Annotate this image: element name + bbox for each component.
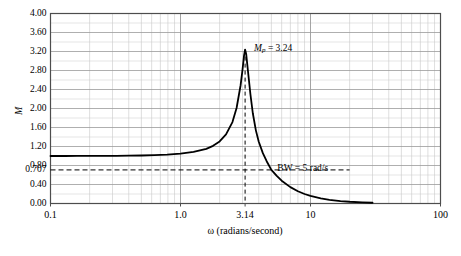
bandwidth-annotation-label: BW = 5 rad/s	[277, 164, 328, 174]
y-tick-label: 1.60	[30, 123, 47, 133]
y-tick-label: 0.40	[30, 180, 47, 190]
x-tick-label: 10	[286, 210, 336, 220]
y-tick-label: 2.00	[30, 104, 47, 114]
x-tick-label: 3.14	[220, 210, 270, 220]
x-tick-label: 0.1	[26, 210, 76, 220]
magnitude-curve	[51, 50, 373, 203]
y-tick-label: 3.20	[30, 47, 47, 57]
y-tick-label: 3.60	[30, 28, 47, 38]
peak-annotation-value: = 3.24	[266, 43, 293, 53]
y-tick-label: 1.20	[30, 142, 47, 152]
peak-annotation-label: Mp = 3.24	[254, 44, 292, 54]
peak-annotation-symbol: M	[254, 43, 262, 53]
x-tick-label: 100	[416, 210, 461, 220]
y-tick-label: 0.707	[25, 165, 46, 175]
y-tick-label: 2.40	[30, 85, 47, 95]
y-axis-title: M	[14, 106, 24, 114]
y-tick-label: 4.00	[30, 9, 47, 19]
data-curve	[51, 50, 373, 203]
x-tick-label: 1.0	[156, 210, 206, 220]
y-tick-label: 0.00	[30, 199, 47, 209]
x-axis-title: ω (radians/second)	[175, 226, 315, 236]
y-tick-label: 2.80	[30, 66, 47, 76]
figure-container: 4.003.603.202.802.402.001.601.200.800.70…	[0, 0, 461, 256]
